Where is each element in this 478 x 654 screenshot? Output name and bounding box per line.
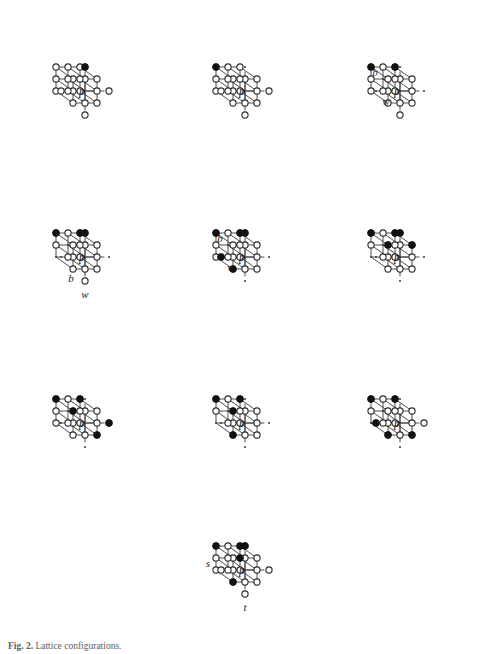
lattice-node-tiny (67, 410, 69, 412)
lattice-node-filled (237, 555, 244, 562)
lattice-node-open (82, 432, 88, 438)
lattice-node-open (65, 64, 71, 70)
lattice-node-open (368, 88, 374, 94)
lattice-node-open (385, 266, 391, 272)
lattice-node-filled (242, 543, 249, 550)
lattice-node-open (82, 100, 88, 106)
vertex-label: w (382, 95, 390, 107)
lattice-node-filled (213, 543, 220, 550)
lattice-node-tiny (382, 78, 384, 80)
lattice-node-open (65, 88, 71, 94)
lattice-node-open (225, 420, 231, 426)
lattice-node-open (213, 555, 219, 561)
center-vertex-label: p (393, 84, 400, 98)
lattice-node-filled (409, 242, 416, 249)
lattice-node-open (82, 112, 88, 118)
lattice-node-open (380, 254, 386, 260)
lattice-node-tiny (370, 422, 372, 424)
lattice-node-open (385, 76, 391, 82)
lattice-node-filled (368, 230, 375, 237)
lattice-node-filled (373, 420, 380, 427)
lattice-node-open (65, 396, 71, 402)
lattice-svg: pst (166, 490, 324, 650)
lattice-node-open (94, 420, 100, 426)
lattice-node-filled (70, 408, 77, 415)
lattice-node-filled (242, 230, 249, 237)
lattice-node-open (53, 408, 59, 414)
lattice-node-open (94, 266, 100, 272)
lattice-node-open (242, 591, 248, 597)
vertex-label: t (243, 601, 247, 613)
lattice-node-open (237, 64, 243, 70)
lattice-node-open (254, 408, 260, 414)
lattice-node-open (254, 254, 260, 260)
lattice-node-open (94, 100, 100, 106)
lattice-node-open (65, 254, 71, 260)
center-vertex-label: p (238, 416, 245, 430)
lattice-node-open (237, 76, 243, 82)
lattice-node-tiny (67, 244, 69, 246)
lattice-node-open (225, 567, 231, 573)
lattice-node-open (380, 230, 386, 236)
lattice-node-open (237, 242, 243, 248)
lattice-svg: pbw (6, 178, 164, 336)
center-vertex-label: p (78, 84, 85, 98)
lattice-node-open (266, 88, 272, 94)
lattice-node-tiny (399, 446, 401, 448)
lattice-node-open (53, 76, 59, 82)
lattice-node-open (70, 432, 76, 438)
lattice-svg: pbw (166, 178, 324, 336)
lattice-node-open (225, 64, 231, 70)
lattice-svg: pbw (324, 12, 476, 170)
lattice-node-open (65, 230, 71, 236)
lattice-svg: p (166, 344, 324, 502)
lattice-node-filled (94, 432, 101, 439)
lattice-node-open (397, 100, 403, 106)
lattice-node-open (237, 408, 243, 414)
figure-container: pppbwpbwpbwpppppst (0, 0, 478, 654)
lattice-node-open (254, 242, 260, 248)
lattice-node-tiny (423, 90, 425, 92)
lattice-node-open (242, 100, 248, 106)
lattice-node-tiny (375, 256, 377, 258)
lattice-node-open (397, 266, 403, 272)
lattice-node-open (225, 543, 231, 549)
lattice-node-open (409, 88, 415, 94)
lattice-node-open (380, 396, 386, 402)
lattice-node-filled (82, 64, 89, 71)
lattice-diagram: pbw (166, 178, 324, 336)
lattice-node-open (254, 567, 260, 573)
lattice-diagram: p (324, 344, 476, 502)
lattice-node-filled (218, 254, 225, 261)
lattice-node-open (94, 254, 100, 260)
lattice-node-open (77, 76, 83, 82)
lattice-node-open (254, 579, 260, 585)
lattice-node-tiny (227, 244, 229, 246)
lattice-node-open (421, 420, 427, 426)
lattice-node-tiny (423, 256, 425, 258)
lattice-node-open (409, 266, 415, 272)
lattice-node-open (218, 88, 224, 94)
center-vertex-label: p (78, 416, 85, 430)
lattice-node-open (242, 579, 248, 585)
lattice-node-filled (385, 242, 392, 249)
lattice-node-open (225, 88, 231, 94)
lattice-node-tiny (370, 256, 372, 258)
lattice-node-open (409, 76, 415, 82)
lattice-node-open (254, 420, 260, 426)
lattice-node-tiny (268, 422, 270, 424)
lattice-diagram: p (324, 178, 476, 336)
lattice-node-tiny (215, 422, 217, 424)
lattice-svg: p (324, 344, 476, 502)
vertex-label: b (217, 232, 223, 244)
lattice-svg: p (324, 178, 476, 336)
lattice-node-tiny (84, 398, 86, 400)
lattice-node-open (266, 567, 272, 573)
lattice-node-open (77, 408, 83, 414)
lattice-node-tiny (60, 422, 62, 424)
lattice-node-open (380, 420, 386, 426)
center-vertex-label: p (78, 250, 85, 264)
lattice-node-tiny (244, 280, 246, 282)
lattice-svg: p (166, 12, 324, 170)
lattice-node-open (242, 266, 248, 272)
